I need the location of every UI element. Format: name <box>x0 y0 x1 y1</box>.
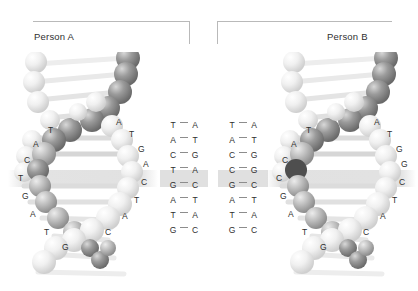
base-right: C <box>248 180 260 190</box>
base-left: T <box>167 165 179 175</box>
helix-a-left-base-2: C <box>24 156 30 165</box>
base-left: A <box>167 195 179 205</box>
helix-b-left-base-4: G <box>280 192 287 201</box>
dna-helix-graphic-b <box>266 52 418 287</box>
base-right: C <box>248 225 260 235</box>
helix-a-right-base-0: A <box>116 118 122 127</box>
helix-a-left-base-6: T <box>44 228 49 237</box>
helix-a-left-base-1: A <box>33 140 39 149</box>
panel-title-person-a: Person A <box>34 31 74 42</box>
hydrogen-bond-icon <box>179 152 189 158</box>
base-left: G <box>167 225 179 235</box>
helix-a-left-base-7: G <box>62 243 69 252</box>
helix-b-left-base-1: A <box>291 140 297 149</box>
header-divider-left <box>189 21 190 44</box>
panel-title-person-b: Person B <box>327 31 368 42</box>
hydrogen-bond-icon <box>238 182 248 188</box>
helix-b-right-base-5: T <box>392 196 397 205</box>
base-right: T <box>189 195 201 205</box>
base-pair-row: A T <box>217 192 269 207</box>
helix-a-left-base-5: A <box>30 210 36 219</box>
helix-a-right-base-5: T <box>134 196 139 205</box>
hydrogen-bond-icon <box>179 137 189 143</box>
helix-a-right-base-3: A <box>143 160 149 169</box>
hydrogen-bond-icon <box>179 227 189 233</box>
hydrogen-bond-icon <box>238 167 248 173</box>
base-pair-row: G C <box>158 222 210 237</box>
header-divider-right <box>217 21 218 44</box>
base-pair-row: A T <box>217 132 269 147</box>
base-left: C <box>226 150 238 160</box>
base-left: C <box>167 150 179 160</box>
hydrogen-bond-icon <box>238 227 248 233</box>
hydrogen-bond-icon <box>179 182 189 188</box>
helix-b-left-base-6: T <box>302 228 307 237</box>
base-pair-row: G C <box>217 177 269 192</box>
base-right: C <box>189 180 201 190</box>
hydrogen-bond-icon <box>238 122 248 128</box>
base-pair-column-person-b: T A A T C G C G G C A T T <box>217 117 269 237</box>
base-left: A <box>226 135 238 145</box>
hydrogen-bond-icon <box>179 122 189 128</box>
helix-b-right-base-0: A <box>374 118 380 127</box>
base-left: T <box>226 120 238 130</box>
base-right: G <box>248 165 260 175</box>
base-left: G <box>226 225 238 235</box>
helix-b-right-base-7: C <box>363 228 369 237</box>
base-right: C <box>189 225 201 235</box>
base-pair-row: A T <box>158 132 210 147</box>
helix-a-left-base-0: T <box>48 126 53 135</box>
base-pair-row: G C <box>217 222 269 237</box>
header-rule-left <box>33 21 189 22</box>
hydrogen-bond-icon <box>238 212 248 218</box>
dna-helix-person-b <box>266 52 418 287</box>
helix-b-left-base-0: T <box>306 126 311 135</box>
helix-b-left-base-2: C <box>282 156 288 165</box>
base-left: A <box>226 195 238 205</box>
dna-helix-person-a <box>8 52 168 287</box>
base-right: A <box>248 210 260 220</box>
helix-a-right-base-1: T <box>129 130 134 139</box>
helix-b-right-base-6: A <box>380 212 386 221</box>
figure-canvas: Person A Person B <box>0 0 418 291</box>
base-right: A <box>248 120 260 130</box>
base-right: T <box>189 135 201 145</box>
base-pair-row: T A <box>217 207 269 222</box>
helix-a-right-base-6: A <box>122 212 128 221</box>
helix-b-right-base-2: G <box>396 145 403 154</box>
base-pair-row: T A <box>158 117 210 132</box>
base-right: A <box>189 120 201 130</box>
base-right: T <box>248 135 260 145</box>
helix-b-left-base-7: G <box>320 243 327 252</box>
base-pair-row: A T <box>158 192 210 207</box>
base-pair-row: T A <box>217 117 269 132</box>
hydrogen-bond-icon <box>179 212 189 218</box>
header-rule-right <box>217 21 392 22</box>
base-pair-row: T A <box>158 207 210 222</box>
base-right: A <box>189 165 201 175</box>
helix-a-left-base-3: T <box>18 174 23 183</box>
base-right: T <box>248 195 260 205</box>
base-pair-row: G C <box>158 177 210 192</box>
hydrogen-bond-icon <box>238 197 248 203</box>
helix-b-left-base-3: C <box>276 174 282 183</box>
base-left: A <box>167 135 179 145</box>
helix-a-right-base-4: C <box>141 178 147 187</box>
base-left: C <box>226 165 238 175</box>
base-left: G <box>167 180 179 190</box>
base-pair-row: C G <box>158 147 210 162</box>
base-left: T <box>167 210 179 220</box>
base-pair-row-highlighted: T A <box>158 162 210 177</box>
base-right: G <box>248 150 260 160</box>
hydrogen-bond-icon <box>179 197 189 203</box>
base-right: G <box>189 150 201 160</box>
base-pair-row: C G <box>217 147 269 162</box>
base-left: G <box>226 180 238 190</box>
hydrogen-bond-icon <box>179 167 189 173</box>
base-left: T <box>226 210 238 220</box>
helix-b-right-base-3: G <box>401 160 408 169</box>
helix-a-right-base-2: G <box>138 145 145 154</box>
hydrogen-bond-icon <box>238 152 248 158</box>
helix-a-left-base-4: G <box>22 192 29 201</box>
base-right: A <box>189 210 201 220</box>
